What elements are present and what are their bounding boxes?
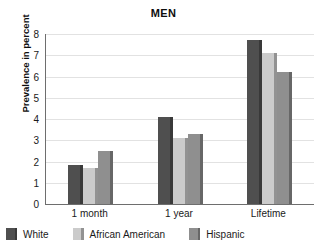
bar-slot bbox=[277, 34, 292, 204]
bar-group bbox=[154, 34, 206, 204]
chart-figure: MEN Prevalence in percent 012345678 1 mo… bbox=[0, 0, 327, 251]
y-axis-tick-label: 6 bbox=[9, 71, 39, 82]
chart-legend: WhiteAfrican AmericanHispanic bbox=[6, 228, 321, 240]
legend-swatch-icon bbox=[73, 228, 84, 240]
bar-group bbox=[243, 34, 295, 204]
y-axis-tick-label: 4 bbox=[9, 114, 39, 125]
bar[interactable] bbox=[83, 168, 98, 204]
bar[interactable] bbox=[98, 151, 113, 204]
y-axis-tick-label: 3 bbox=[9, 135, 39, 146]
bar[interactable] bbox=[173, 138, 188, 204]
legend-item[interactable]: Hispanic bbox=[189, 228, 244, 240]
bar-group bbox=[65, 34, 117, 204]
bar-slot bbox=[68, 34, 83, 204]
y-axis-tick-label: 1 bbox=[9, 177, 39, 188]
bar[interactable] bbox=[68, 165, 83, 204]
legend-label: Hispanic bbox=[206, 229, 244, 240]
legend-label: African American bbox=[90, 229, 166, 240]
bar-slot bbox=[247, 34, 262, 204]
bar-slot bbox=[98, 34, 113, 204]
legend-item[interactable]: African American bbox=[73, 228, 166, 240]
y-axis-tick-label: 8 bbox=[9, 29, 39, 40]
bar[interactable] bbox=[188, 134, 203, 204]
legend-item[interactable]: White bbox=[6, 228, 49, 240]
bar[interactable] bbox=[262, 53, 277, 204]
bar-slot bbox=[158, 34, 173, 204]
bar-slot bbox=[83, 34, 98, 204]
bar-slot bbox=[173, 34, 188, 204]
plot-area bbox=[45, 34, 314, 205]
chart-title: MEN bbox=[0, 7, 327, 19]
bar[interactable] bbox=[247, 40, 262, 204]
y-axis-tick-label: 0 bbox=[9, 199, 39, 210]
bar[interactable] bbox=[158, 117, 173, 204]
y-axis-tick-label: 5 bbox=[9, 92, 39, 103]
bar[interactable] bbox=[277, 72, 292, 204]
bar-slot bbox=[188, 34, 203, 204]
bar-slot bbox=[262, 34, 277, 204]
x-axis-tick-label: 1 year bbox=[165, 208, 193, 219]
legend-swatch-icon bbox=[6, 228, 17, 240]
legend-label: White bbox=[23, 229, 49, 240]
y-axis-tick-label: 7 bbox=[9, 50, 39, 61]
x-axis-tick-label: 1 month bbox=[72, 208, 108, 219]
y-axis-tick-label: 2 bbox=[9, 156, 39, 167]
legend-swatch-icon bbox=[189, 228, 200, 240]
x-axis-tick-label: Lifetime bbox=[251, 208, 286, 219]
